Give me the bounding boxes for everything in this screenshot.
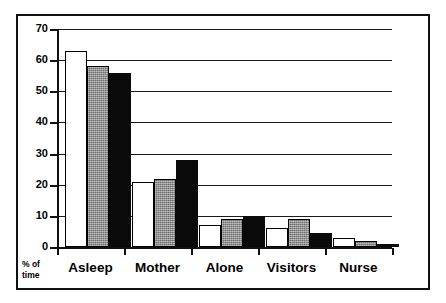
y-tick-label-50: 50 bbox=[20, 85, 48, 96]
y-tick-label-10: 10 bbox=[20, 210, 48, 221]
x-axis-spine bbox=[57, 247, 392, 249]
bars-layer bbox=[57, 29, 392, 247]
y-tick-30 bbox=[50, 154, 57, 156]
x-category-label-alone: Alone bbox=[191, 260, 258, 275]
bar-mother-series-2 bbox=[154, 179, 176, 248]
y-tick-label-0: 0 bbox=[20, 241, 48, 252]
y-tick-label-20: 20 bbox=[20, 179, 48, 190]
bar-nurse-series-1 bbox=[333, 238, 355, 247]
bar-asleep-series-1 bbox=[65, 51, 87, 247]
bar-mother-series-1 bbox=[132, 182, 154, 247]
x-category-label-visitors: Visitors bbox=[258, 260, 325, 275]
x-axis-category-labels: Asleep Mother Alone Visitors Nurse bbox=[18, 256, 428, 286]
bar-visitors-series-3 bbox=[310, 233, 332, 247]
y-tick-label-40: 40 bbox=[20, 116, 48, 127]
bar-asleep-series-2 bbox=[87, 66, 109, 247]
bar-alone-series-2 bbox=[221, 219, 243, 247]
x-tick-1 bbox=[124, 248, 126, 255]
bar-visitors-series-2 bbox=[288, 219, 310, 247]
chart-figure: 70 60 50 40 30 20 10 0 bbox=[0, 0, 446, 303]
x-category-label-mother: Mother bbox=[124, 260, 191, 275]
x-tick-4 bbox=[325, 248, 327, 255]
y-tick-40 bbox=[50, 122, 57, 124]
y-tick-label-30: 30 bbox=[20, 148, 48, 159]
bar-alone-series-3 bbox=[243, 216, 265, 247]
bar-asleep-series-3 bbox=[109, 73, 131, 247]
y-tick-label-70: 70 bbox=[20, 23, 48, 34]
bar-visitors-series-1 bbox=[266, 228, 288, 247]
y-tick-0 bbox=[50, 247, 57, 249]
y-tick-20 bbox=[50, 185, 57, 187]
x-category-label-nurse: Nurse bbox=[325, 260, 392, 275]
x-tick-5 bbox=[392, 248, 394, 255]
x-category-label-asleep: Asleep bbox=[57, 260, 124, 275]
x-tick-2 bbox=[191, 248, 193, 255]
bar-mother-series-3 bbox=[176, 160, 198, 247]
bar-alone-series-1 bbox=[199, 225, 221, 247]
y-tick-label-60: 60 bbox=[20, 54, 48, 65]
y-tick-50 bbox=[50, 91, 57, 93]
y-tick-10 bbox=[50, 216, 57, 218]
x-tick-3 bbox=[258, 248, 260, 255]
y-tick-60 bbox=[50, 60, 57, 62]
y-tick-70 bbox=[50, 29, 57, 31]
x-tick-0 bbox=[57, 248, 59, 255]
